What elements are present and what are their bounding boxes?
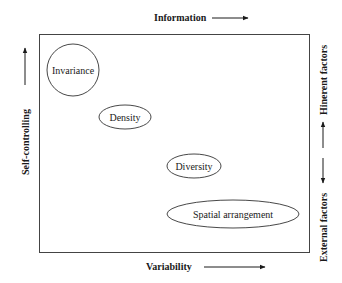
node-label: Diversity (175, 161, 212, 172)
node-label: Invariance (52, 65, 95, 76)
node-diversity: Diversity (167, 154, 221, 178)
node-label: Density (109, 112, 140, 123)
diagram-canvas: Information Self-controlling Hinerent fa… (0, 0, 342, 283)
bottom-axis: Variability (146, 261, 265, 272)
node-density: Density (99, 105, 151, 129)
right-axis: Hinerent factors External factors (318, 45, 329, 262)
axis-label-variability: Variability (146, 261, 192, 272)
left-axis: Self-controlling (20, 48, 31, 175)
node-spatial-arrangement: Spatial arrangement (167, 200, 299, 228)
axis-label-hinerent-factors: Hinerent factors (318, 45, 329, 115)
axis-label-self-controlling: Self-controlling (20, 109, 31, 175)
top-axis: Information (154, 12, 248, 23)
axis-label-external-factors: External factors (318, 193, 329, 262)
node-label: Spatial arrangement (193, 209, 273, 220)
node-invariance: Invariance (47, 44, 99, 96)
axis-label-information: Information (154, 12, 207, 23)
